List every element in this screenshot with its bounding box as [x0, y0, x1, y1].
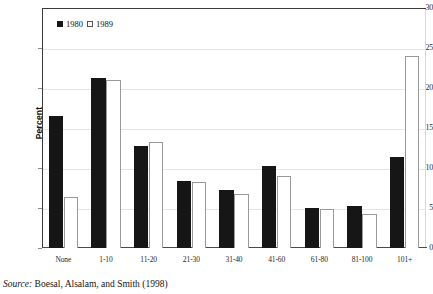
bar-1989-41-60 [277, 176, 292, 248]
bar-group [177, 8, 207, 248]
x-tick-label: 41-60 [255, 256, 298, 264]
source-text: Boesal, Alsalam, and Smith (1998) [32, 279, 167, 289]
figure-bar-chart: Percent 051015202530 None1-1011-2021-303… [0, 0, 433, 294]
bar-1980-81-100 [347, 206, 362, 248]
open-square-swatch-icon [87, 21, 93, 27]
source-note: Source: Boesal, Alsalam, and Smith (1998… [3, 279, 168, 289]
legend-label-1980: 1980 [66, 19, 83, 29]
bar-1980-21-30 [177, 181, 192, 248]
bar-1980-41-60 [262, 166, 277, 248]
bar-group [91, 8, 121, 248]
bar-1989-21-30 [192, 182, 207, 248]
x-tick-label: 61-80 [298, 256, 341, 264]
bar-1989-101+ [405, 56, 420, 248]
x-tick-label: 81-100 [341, 256, 384, 264]
bar-group [305, 8, 335, 248]
bar-1980-101+ [390, 157, 405, 248]
bar-group [390, 8, 420, 248]
bar-group [219, 8, 249, 248]
bar-group [49, 8, 79, 248]
bar-1989-1-10 [106, 80, 121, 248]
legend-item-1989: 1989 [87, 19, 113, 29]
bar-1989-31-40 [234, 194, 249, 248]
bar-group [134, 8, 164, 248]
x-tick-label: 11-20 [127, 256, 170, 264]
source-prefix: Source: [3, 279, 32, 289]
bar-group [347, 8, 377, 248]
x-tick-label: 1-10 [85, 256, 128, 264]
chart-legend: 1980 1989 [57, 19, 113, 29]
bar-1989-11-20 [149, 142, 164, 248]
legend-item-1980: 1980 [57, 19, 83, 29]
bar-1980-11-20 [134, 146, 149, 248]
x-tick-label: 31-40 [213, 256, 256, 264]
filled-square-swatch-icon [57, 21, 63, 27]
bar-1989-None [64, 197, 79, 248]
x-tick-label: 21-30 [170, 256, 213, 264]
bar-1980-31-40 [219, 190, 234, 248]
x-tick-label: 101+ [383, 256, 426, 264]
bar-1980-1-10 [91, 78, 106, 248]
bar-1989-61-80 [320, 209, 335, 248]
bar-1980-None [49, 116, 64, 248]
bar-1980-61-80 [305, 208, 320, 248]
bar-1989-81-100 [362, 214, 377, 248]
bar-group [262, 8, 292, 248]
bar-groups [42, 8, 427, 248]
legend-label-1989: 1989 [96, 19, 113, 29]
x-tick-label: None [42, 256, 85, 264]
